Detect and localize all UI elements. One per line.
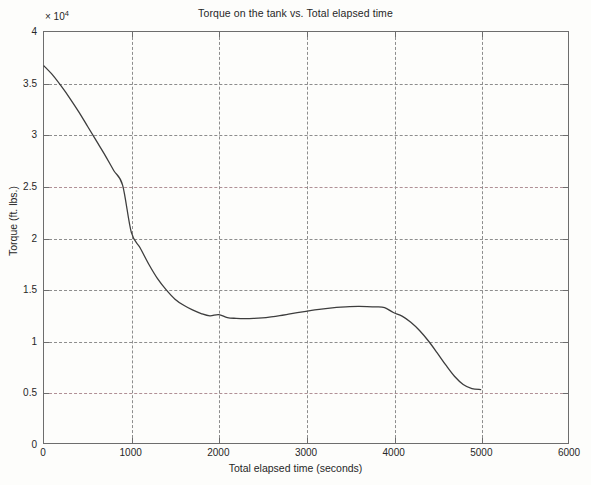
y-tick-label: 3.5	[0, 77, 37, 88]
x-tick-label: 0	[40, 447, 46, 458]
y-tick-label: 1	[0, 335, 37, 346]
torque-curve-line	[44, 66, 481, 390]
y-tick-label: 4	[0, 26, 37, 37]
y-tick-label: 0.5	[0, 387, 37, 398]
y-tick-label: 0	[0, 439, 37, 450]
y-axis-exponent-label: × 104	[45, 9, 69, 22]
x-axis-title: Total elapsed time (seconds)	[0, 462, 591, 474]
y-axis-title: Torque (ft. lbs.)	[7, 156, 19, 286]
chart-figure: Torque on the tank vs. Total elapsed tim…	[0, 0, 591, 485]
x-tick-label: 5000	[470, 447, 492, 458]
x-tick-label: 2000	[207, 447, 229, 458]
chart-title: Torque on the tank vs. Total elapsed tim…	[0, 7, 591, 19]
x-tick-label: 6000	[558, 447, 580, 458]
exponent-prefix: × 10	[45, 11, 65, 22]
torque-curve-svg	[44, 32, 568, 443]
page-background: Torque on the tank vs. Total elapsed tim…	[0, 0, 591, 485]
plot-area	[43, 31, 569, 444]
y-tick-label: 3	[0, 129, 37, 140]
x-tick-label: 4000	[383, 447, 405, 458]
x-tick-label: 1000	[120, 447, 142, 458]
x-tick-label: 3000	[295, 447, 317, 458]
exponent-power: 4	[65, 9, 69, 18]
